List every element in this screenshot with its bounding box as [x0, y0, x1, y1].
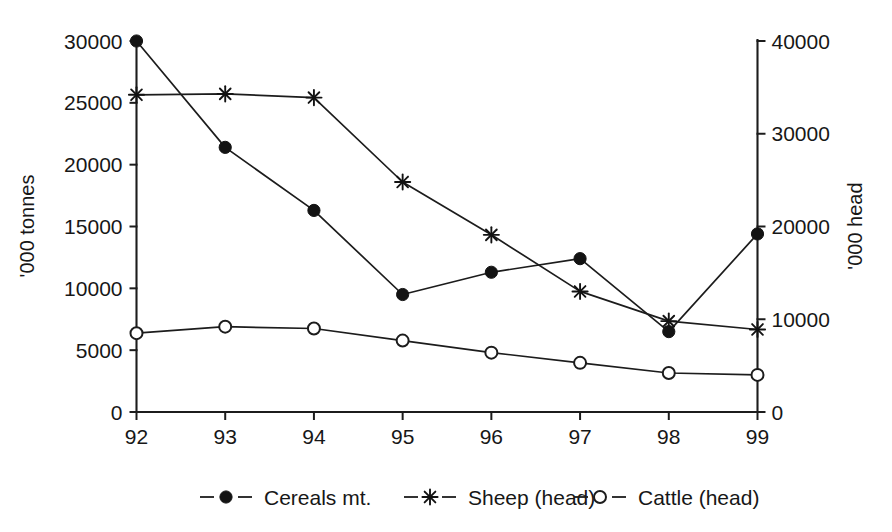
left-tick-label: 20000: [64, 153, 122, 176]
right-tick-label: 10000: [772, 308, 830, 331]
data-point-asterisk: [750, 322, 765, 337]
chart-legend: Cereals mt.Sheep (head)Cattle (head): [200, 486, 759, 509]
left-axis-title: '000 tonnes: [16, 175, 38, 278]
x-tick-label: 97: [568, 425, 591, 448]
data-point-filled-circle: [485, 266, 497, 278]
right-tick-label: 30000: [772, 122, 830, 145]
x-tick-label: 94: [302, 425, 326, 448]
right-tick-label: 0: [772, 401, 784, 424]
x-tick-label: 99: [746, 425, 769, 448]
left-tick-label: 10000: [64, 277, 122, 300]
legend-marker-asterisk: [422, 489, 437, 504]
legend-marker-open-circle: [594, 491, 606, 503]
x-tick-label: 96: [480, 425, 503, 448]
data-point-open-circle: [485, 347, 497, 359]
chart-container: 050001000015000200002500030000 010000200…: [0, 0, 892, 532]
data-point-open-circle: [219, 321, 231, 333]
data-point-filled-circle: [397, 288, 409, 300]
data-point-open-circle: [752, 369, 764, 381]
data-point-open-circle: [131, 327, 143, 339]
legend-marker-filled-circle: [220, 491, 232, 503]
data-point-filled-circle: [130, 35, 142, 47]
x-tick-label: 98: [657, 425, 680, 448]
data-point-filled-circle: [219, 141, 231, 153]
data-point-asterisk: [572, 284, 587, 299]
data-point-asterisk: [129, 87, 144, 102]
right-axis-title: '000 head: [844, 182, 866, 269]
data-point-open-circle: [663, 367, 675, 379]
left-tick-label: 5000: [76, 339, 123, 362]
data-point-open-circle: [308, 323, 320, 335]
left-tick-label: 25000: [64, 91, 122, 114]
legend-label: Cattle (head): [638, 486, 759, 509]
data-point-asterisk: [484, 227, 499, 242]
data-point-asterisk: [218, 86, 233, 101]
left-tick-label: 15000: [64, 215, 122, 238]
x-tick-label: 93: [214, 425, 237, 448]
x-tick-label: 95: [391, 425, 414, 448]
x-tick-label: 92: [125, 425, 148, 448]
line-chart: 050001000015000200002500030000 010000200…: [0, 0, 892, 532]
legend-label: Cereals mt.: [264, 486, 371, 509]
data-point-asterisk: [661, 314, 676, 329]
right-tick-label: 40000: [772, 30, 830, 53]
left-tick-label: 30000: [64, 30, 122, 53]
data-point-filled-circle: [751, 228, 763, 240]
data-point-asterisk: [395, 174, 410, 189]
right-tick-label: 20000: [772, 215, 830, 238]
data-point-asterisk: [306, 90, 321, 105]
data-point-filled-circle: [574, 253, 586, 265]
left-tick-label: 0: [111, 401, 123, 424]
data-point-open-circle: [574, 357, 586, 369]
data-point-open-circle: [397, 335, 409, 347]
data-point-filled-circle: [308, 204, 320, 216]
